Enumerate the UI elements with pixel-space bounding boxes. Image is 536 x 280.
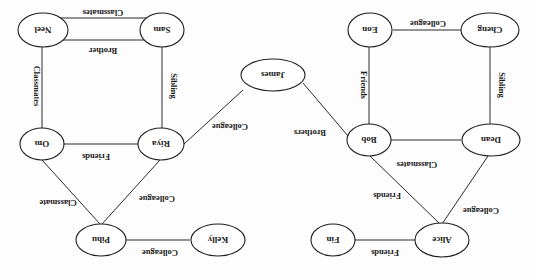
node-alice: Alice — [415, 223, 469, 257]
relationship-graph: Classmates Brother Classmates Sibling Fr… — [0, 0, 536, 280]
node-eon: Eon — [348, 13, 392, 47]
node-sam: Sam — [140, 13, 184, 47]
edge-label-pihu-kelly: Colleague — [142, 248, 178, 258]
edge-label-neel-sam-classmates: Classmates — [82, 8, 123, 18]
node-label-bob: Bob — [361, 135, 377, 145]
edge-label-james-bob: Brothers — [293, 128, 326, 138]
node-cheng: Cheng — [461, 13, 519, 47]
node-label-alice: Alice — [432, 235, 452, 245]
node-label-james: James — [261, 70, 285, 80]
node-label-dean: Dean — [481, 135, 501, 145]
node-label-pihu: Pihu — [92, 235, 110, 245]
edge-label-riya-pihu: Colleague — [139, 194, 175, 204]
edge-label-om-pihu: Classmate — [39, 198, 77, 208]
edge-label-bob-alice: Friends — [372, 191, 401, 201]
edge-riya-james — [184, 90, 243, 144]
node-label-eon: Eon — [362, 25, 378, 35]
node-riya: Riya — [138, 128, 184, 160]
edge-label-riya-james: Colleague — [212, 122, 248, 132]
node-label-cheng: Cheng — [477, 25, 503, 35]
node-james: James — [241, 59, 305, 91]
node-label-riya: Riya — [152, 139, 171, 149]
edge-riya-pihu — [102, 160, 160, 224]
edge-label-alice-fin: Friends — [370, 248, 399, 258]
node-label-neel: Neel — [34, 25, 51, 35]
edge-label-sam-riya: Sibling — [169, 73, 179, 99]
node-label-sam: Sam — [153, 25, 171, 35]
edge-label-eon-bob: Friends — [359, 71, 369, 100]
edge-om-pihu — [42, 160, 100, 224]
node-kelly: Kelly — [191, 224, 245, 256]
node-label-om: Om — [34, 139, 49, 149]
edge-label-cheng-dean: Sibling — [497, 72, 507, 98]
edge-label-neel-sam-brother: Brother — [88, 46, 117, 56]
node-label-kelly: Kelly — [207, 235, 228, 245]
node-bob: Bob — [347, 124, 391, 156]
edge-label-neel-om: Classmates — [32, 66, 42, 107]
edge-label-eon-cheng: Colleague — [410, 19, 446, 29]
node-fin: Fin — [311, 224, 355, 256]
node-pihu: Pihu — [76, 224, 126, 256]
edge-label-om-riya: Friends — [81, 152, 110, 162]
node-om: Om — [20, 128, 64, 160]
node-dean: Dean — [462, 124, 520, 156]
node-neel: Neel — [18, 13, 68, 47]
edge-label-dean-bob-classmates: Classmates — [396, 160, 437, 170]
node-label-fin: Fin — [326, 235, 339, 245]
edge-label-dean-alice: Colleague — [463, 206, 499, 216]
